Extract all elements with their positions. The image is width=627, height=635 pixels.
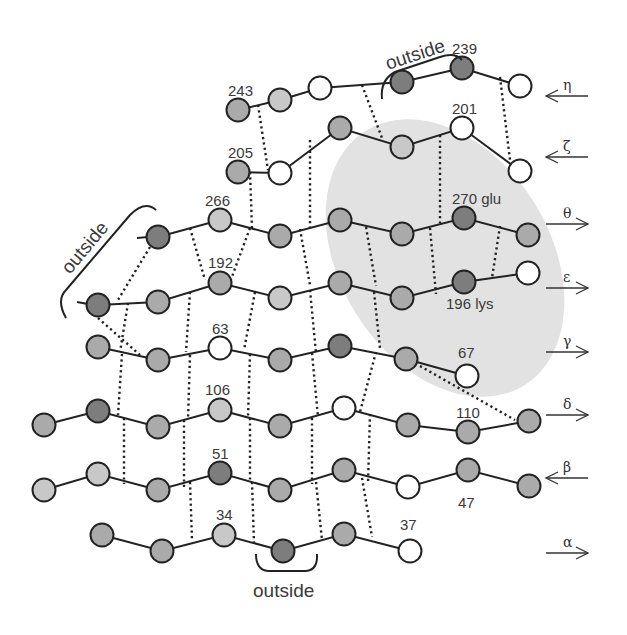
residue-node (87, 400, 110, 423)
residue-node (329, 272, 352, 295)
residue-node (399, 540, 422, 563)
strand-label-alpha: α (563, 534, 573, 550)
hydrogen-bond (312, 353, 318, 417)
residue-node (453, 207, 476, 230)
residue-node (269, 415, 292, 438)
residue-node (395, 348, 418, 371)
residue-label: 192 (208, 254, 233, 271)
residue-label: 205 (228, 144, 253, 161)
residue-node (457, 421, 480, 444)
residue-label: 201 (452, 100, 477, 117)
strand-label-zeta: ζ (563, 138, 571, 154)
residue-node (509, 75, 532, 98)
strand-label-gamma: γ (563, 333, 571, 349)
strand-label-beta: β (563, 459, 571, 475)
residue-node (397, 476, 420, 499)
hydrogen-bond (118, 247, 150, 300)
beta-sheet-diagram: 243239205201266270 glu192196 lys63671061… (0, 0, 627, 635)
residue-node (209, 272, 232, 295)
residue-node (147, 416, 170, 439)
strand-label-eta: η (563, 77, 571, 93)
residue-node (33, 479, 56, 502)
residue-label: 270 glu (452, 190, 501, 207)
residue-node (147, 479, 170, 502)
residue-node (269, 225, 292, 248)
hydrogen-bond (186, 292, 190, 352)
residue-label: 47 (458, 494, 475, 511)
residue-node (391, 223, 414, 246)
residue-node (333, 523, 356, 546)
residue-node (453, 271, 476, 294)
strand-label-theta: θ (563, 205, 571, 221)
diagram-canvas: 243239205201266270 glu192196 lys63671061… (0, 0, 627, 635)
residue-node (451, 117, 474, 140)
residue-node (517, 224, 540, 247)
residue-node (87, 463, 110, 486)
residue-label: 106 (205, 381, 230, 398)
residue-node (333, 397, 356, 420)
residue-node (269, 287, 292, 310)
residue-node (87, 294, 110, 317)
residue-node (147, 291, 170, 314)
residue-node (269, 479, 292, 502)
residue-node (33, 414, 56, 437)
strand-label-epsilon: ε (563, 269, 570, 285)
hydrogen-bond (362, 478, 372, 537)
residue-label: 196 lys (446, 295, 494, 312)
residue-node (151, 540, 174, 563)
hydrogen-bond (118, 354, 122, 415)
residue-node (517, 262, 540, 285)
residue-node (269, 89, 292, 112)
residue-node (333, 459, 356, 482)
hydrogen-bond (360, 352, 376, 412)
hydrogen-bond (190, 482, 192, 540)
residue-label: 110 (456, 404, 480, 421)
residue-node (209, 462, 232, 485)
residue-node (209, 337, 232, 360)
residue-node (227, 161, 250, 184)
residue-label: 243 (228, 82, 253, 99)
hydrogen-bond (310, 290, 316, 353)
residue-node (391, 136, 414, 159)
residue-label: 34 (216, 506, 233, 523)
residue-node (509, 160, 532, 183)
residue-node (91, 524, 114, 547)
strand-alpha-backbone (102, 534, 410, 551)
residue-node (457, 459, 480, 482)
residue-node (209, 399, 232, 422)
strand-label-delta: δ (563, 396, 571, 412)
outside-label-top: outside (383, 35, 448, 74)
residue-node (329, 117, 352, 140)
residue-node (227, 99, 250, 122)
residue-node (518, 410, 541, 433)
residue-node (309, 77, 332, 100)
hydrogen-bond (300, 229, 310, 285)
hydrogen-bond (258, 105, 268, 170)
residue-node (329, 335, 352, 358)
outside-label-bottom: outside (253, 580, 314, 601)
residue-label: 67 (458, 344, 475, 361)
hydrogen-bond (248, 354, 250, 418)
hydrogen-bond (190, 228, 205, 280)
residue-node (213, 524, 236, 547)
hydrogen-bond (252, 482, 254, 543)
hydrogen-bond (316, 482, 322, 540)
residue-node (269, 162, 292, 185)
residue-node (456, 365, 479, 388)
residue-label: 37 (400, 516, 417, 533)
residue-label: 63 (212, 320, 229, 337)
active-site-highlight (276, 75, 613, 441)
hydrogen-bond (368, 414, 370, 484)
hydrogen-bond (188, 355, 190, 420)
residue-label: 266 (205, 192, 230, 209)
residue-label: 239 (452, 40, 477, 57)
residue-node (518, 475, 541, 498)
residue-node (272, 540, 295, 563)
residue-node (397, 414, 420, 437)
residue-node (209, 209, 232, 232)
residue-node (147, 349, 170, 372)
residue-node (87, 336, 110, 359)
residue-label: 51 (212, 445, 229, 462)
hydrogen-bond (250, 172, 252, 228)
residue-node (391, 71, 414, 94)
